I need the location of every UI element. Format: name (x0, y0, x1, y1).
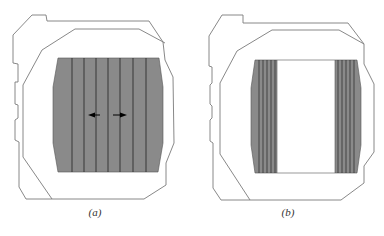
panel-b (209, 15, 374, 200)
figure-canvas (0, 0, 384, 236)
caption-b: (b) (282, 206, 295, 218)
caption-a: (a) (89, 206, 102, 218)
panel-a (13, 15, 174, 199)
shaded-region-right-b (335, 60, 361, 173)
shaded-region-left-b (251, 60, 277, 173)
